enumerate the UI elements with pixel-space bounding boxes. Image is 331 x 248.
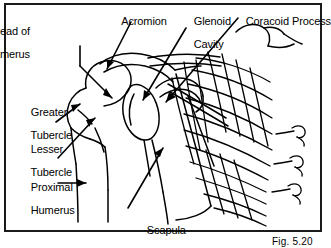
label-head-of-humerus-line2: Humerus	[0, 48, 30, 60]
label-scapula: Scapula	[129, 213, 186, 248]
label-lesser-tubercle-line1: Lesser	[31, 143, 63, 155]
label-glenoid-cavity-line2: Cavity	[194, 38, 224, 50]
label-greater-tubercle-line1: Greater	[31, 106, 68, 118]
label-head-of-humerus-line1: Head of	[0, 25, 30, 37]
label-coracoid-process: Coracoid Process	[228, 4, 331, 39]
label-acromion-line1: Acromion	[121, 15, 167, 27]
figure-caption: Fig. 5.20	[272, 236, 313, 247]
label-scapula-line1: Scapula	[147, 224, 186, 236]
label-glenoid-cavity-line1: Glenoid	[194, 15, 231, 27]
label-glenoid-cavity: Glenoid Cavity	[176, 4, 231, 62]
label-proximal-humerus: Proximal Humerus	[13, 170, 75, 228]
label-proximal-humerus-line2: Humerus	[31, 204, 75, 216]
label-proximal-humerus-line1: Proximal	[31, 181, 73, 193]
label-coracoid-process-line1: Coracoid Process	[246, 15, 331, 27]
label-acromion: Acromion	[104, 4, 167, 39]
